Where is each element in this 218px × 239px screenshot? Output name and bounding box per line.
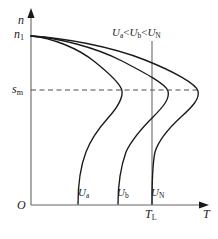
t-axis	[31, 201, 209, 208]
curve-label-Ub: Ub	[117, 187, 129, 199]
n1-tick-label: n1	[14, 28, 24, 42]
figure-canvas	[0, 0, 218, 239]
speed-torque-characteristic-figure: n n1 sm O T TL Ua<Ub<UN Ua Ub UN	[0, 0, 218, 239]
curve-label-UN: UN	[151, 187, 164, 199]
n-axis	[27, 8, 34, 205]
sm-tick-label: sm	[12, 83, 23, 97]
curve-UN	[31, 36, 198, 204]
origin-label: O	[17, 199, 26, 211]
n-axis-label: n	[18, 14, 24, 26]
tl-tick-label: TL	[145, 208, 157, 222]
curve-label-Ua: Ua	[78, 187, 89, 199]
t-axis-label: T	[203, 208, 210, 220]
voltage-inequality-annotation: Ua<Ub<UN	[112, 27, 161, 39]
curve-Ua	[31, 36, 122, 204]
